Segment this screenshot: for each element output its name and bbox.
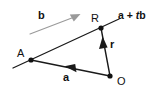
vector-diagram: A R O a r b a + tb [0,0,159,99]
point-marker-O [107,73,112,78]
point-label-A: A [17,48,24,59]
vector-r-shaft [101,28,110,76]
vector-r-arrowhead [99,37,108,50]
point-label-O: O [117,76,126,87]
expression-vector-b: b [139,9,145,21]
position-expression-label: a + tb [118,10,146,21]
point-label-R: R [91,13,99,24]
point-marker-R [98,25,103,30]
vector-label-a: a [63,72,69,83]
expression-operator: + [124,9,136,21]
point-marker-A [28,57,33,62]
vector-label-b: b [38,10,45,21]
vector-label-r: r [110,39,114,50]
